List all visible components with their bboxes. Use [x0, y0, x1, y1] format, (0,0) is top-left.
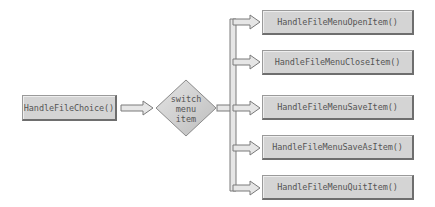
decision-line-3: item	[158, 114, 214, 124]
target-node-label: HandleFileMenuSaveAsItem()	[272, 142, 402, 152]
target-node-label: HandleFileMenuQuitItem()	[277, 182, 397, 192]
target-node-label: HandleFileMenuCloseItem()	[275, 57, 400, 67]
source-node-handle-file-choice: HandleFileChoice()	[22, 95, 117, 121]
target-node-quit: HandleFileMenuQuitItem()	[262, 175, 414, 200]
target-node-save-as: HandleFileMenuSaveAsItem()	[262, 135, 414, 160]
decision-label: switch menu item	[158, 94, 214, 124]
source-node-label: HandleFileChoice()	[24, 103, 114, 113]
target-node-save: HandleFileMenuSaveItem()	[262, 95, 414, 120]
target-node-close: HandleFileMenuCloseItem()	[262, 50, 414, 75]
target-node-label: HandleFileMenuOpenItem()	[277, 17, 397, 27]
arrow-source-to-decision	[121, 101, 153, 115]
branch-arrows	[233, 15, 260, 195]
decision-line-2: menu	[158, 104, 214, 114]
target-node-open: HandleFileMenuOpenItem()	[262, 10, 414, 35]
target-node-label: HandleFileMenuSaveItem()	[277, 102, 397, 112]
decision-line-1: switch	[158, 94, 214, 104]
